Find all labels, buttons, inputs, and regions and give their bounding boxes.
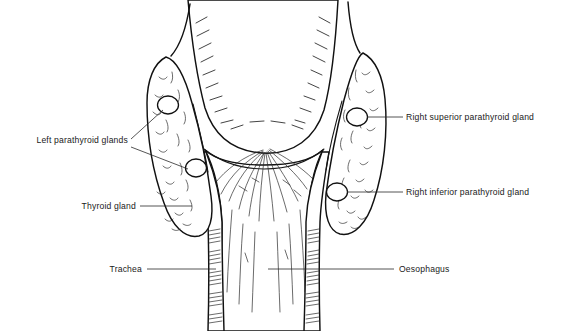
parathyroid-left-superior-icon [158, 96, 179, 114]
label-left-parathyroid-glands: Left parathyroid glands [36, 135, 128, 145]
parathyroid-right-superior-icon [347, 108, 368, 126]
label-right-inferior-parathyroid-gland: Right inferior parathyroid gland [406, 187, 529, 197]
label-right-superior-parathyroid-gland: Right superior parathyroid gland [406, 112, 534, 122]
parathyroid-left-inferior-icon [186, 159, 207, 177]
parathyroid-right-inferior-icon [327, 183, 348, 201]
label-thyroid-gland: Thyroid gland [82, 201, 136, 211]
label-trachea: Trachea [110, 264, 143, 274]
label-oesophagus: Oesophagus [399, 264, 450, 274]
right-lobe-upper-vessel [348, 2, 360, 53]
anatomy-illustration: Left parathyroid glands Thyroid gland Tr… [0, 0, 565, 331]
pharynx-group [188, 0, 338, 153]
left-lobe-upper-vessel [171, 4, 190, 56]
pharynx-outline [188, 0, 338, 153]
figure-canvas: Left parathyroid glands Thyroid gland Tr… [0, 0, 565, 331]
